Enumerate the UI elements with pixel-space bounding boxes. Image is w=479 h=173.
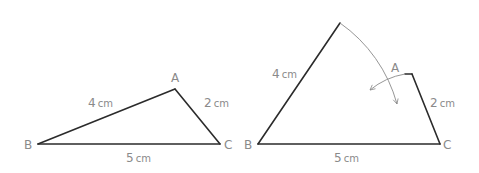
left-side-ac-length: 2cm xyxy=(204,96,229,110)
rotation-arc-ab-arrow-icon xyxy=(340,23,397,104)
left-vertex-b-label: B xyxy=(24,138,32,152)
right-side-ab xyxy=(258,23,340,144)
right-vertex-c-label: C xyxy=(443,138,451,152)
right-vertex-b-label: B xyxy=(244,138,252,152)
right-side-ab-length: 4cm xyxy=(272,67,297,81)
right-side-bc-length: 5cm xyxy=(334,151,359,165)
left-side-ab-length: 4cm xyxy=(88,96,113,110)
left-vertex-c-label: C xyxy=(224,138,232,152)
right-vertex-a-label: A xyxy=(391,61,400,75)
left-triangle: A B C 4cm 2cm 5cm xyxy=(24,71,232,165)
rotation-arc-ac-arrow-icon xyxy=(370,74,405,90)
right-side-ac-length: 2cm xyxy=(430,96,455,110)
triangle-construction-diagram: A B C 4cm 2cm 5cm A B C 4cm 2cm 5cm xyxy=(0,0,479,173)
left-side-bc-length: 5cm xyxy=(126,151,151,165)
left-vertex-a-label: A xyxy=(171,71,180,85)
right-triangle: A B C 4cm 2cm 5cm xyxy=(244,23,455,165)
